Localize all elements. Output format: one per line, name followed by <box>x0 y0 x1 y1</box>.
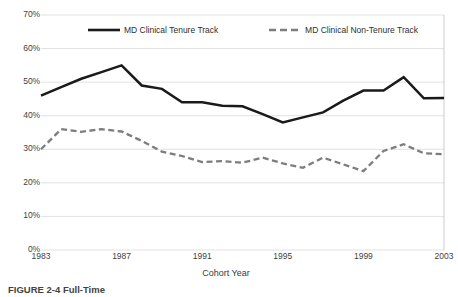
x-tick-label: 1983 <box>21 251 61 261</box>
y-tick-label: 20% <box>6 178 40 187</box>
legend-label-non-tenure-track: MD Clinical Non-Tenure Track <box>305 25 418 35</box>
figure-caption: FIGURE 2-4 Full-Time <box>8 284 452 297</box>
x-axis-tick-labels: 198319871991199519992003 <box>0 251 452 265</box>
x-tick-label: 1991 <box>182 251 222 261</box>
legend-swatch-dashed-line-icon <box>269 25 301 35</box>
legend-swatch-solid-line-icon <box>88 25 120 35</box>
y-tick-label: 30% <box>6 144 40 153</box>
y-tick-label: 40% <box>6 111 40 120</box>
x-tick-label: 1995 <box>263 251 303 261</box>
x-tick-label: 1987 <box>102 251 142 261</box>
data-series-line-1 <box>41 65 444 122</box>
x-tick-label: 1999 <box>343 251 383 261</box>
legend-entry-non-tenure-track: MD Clinical Non-Tenure Track <box>269 25 418 35</box>
data-series-line-2 <box>41 129 444 171</box>
y-axis-tick-labels: 70%60%50%40%30%20%10%0% <box>2 0 40 268</box>
chart-plot-svg <box>0 0 452 268</box>
data-series-group <box>41 65 444 171</box>
chart-legend: MD Clinical Tenure Track MD Clinical Non… <box>88 23 418 37</box>
line-chart: 70%60%50%40%30%20%10%0% 1983198719911995… <box>0 0 452 268</box>
x-axis-title: Cohort Year <box>0 268 452 279</box>
y-tick-label: 50% <box>6 77 40 86</box>
x-tick-label: 2003 <box>424 251 458 261</box>
gridlines <box>41 15 444 250</box>
legend-label-tenure-track: MD Clinical Tenure Track <box>124 25 218 35</box>
y-tick-label: 10% <box>6 211 40 220</box>
y-tick-label: 70% <box>6 10 40 19</box>
legend-entry-tenure-track: MD Clinical Tenure Track <box>88 25 218 35</box>
y-tick-label: 60% <box>6 44 40 53</box>
